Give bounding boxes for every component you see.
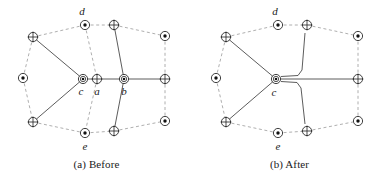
label-c: c <box>272 86 277 98</box>
label-a: a <box>94 85 100 97</box>
after-diagram: d c e <box>193 0 386 160</box>
figure-container: d c a b e (a) Before <box>0 0 387 187</box>
before-diagram: d c a b e <box>0 0 193 160</box>
node-e <box>80 128 89 137</box>
node-d <box>80 20 89 29</box>
dotted-circle-node <box>211 73 220 82</box>
label-c: c <box>79 85 84 97</box>
dotted-circle-node <box>160 31 169 40</box>
node-b <box>119 74 128 83</box>
label-e: e <box>83 140 88 152</box>
crossed-circle-node <box>28 32 39 43</box>
crossed-circle-node <box>160 74 171 85</box>
label-e: e <box>276 140 281 152</box>
panel-after: d c e (b) After <box>193 0 386 187</box>
node-e <box>273 128 282 137</box>
dotted-circle-node <box>160 116 169 125</box>
caption-after: (b) After <box>193 158 386 170</box>
node-a <box>92 74 103 85</box>
label-b: b <box>121 85 127 97</box>
label-d: d <box>79 5 85 17</box>
caption-before: (a) Before <box>0 158 193 170</box>
node-c <box>78 74 87 83</box>
crossed-circle-node <box>353 74 364 85</box>
node-c <box>271 74 280 83</box>
dotted-circle-node <box>353 116 362 125</box>
panel-before: d c a b e (a) Before <box>0 0 193 187</box>
after-solid-edges <box>226 33 358 124</box>
crossed-circle-node <box>302 20 313 31</box>
crossed-circle-node <box>302 126 313 137</box>
node-d <box>273 20 282 29</box>
crossed-circle-node <box>109 126 120 137</box>
crossed-circle-node <box>221 32 232 43</box>
crossed-circle-node <box>109 20 120 31</box>
dotted-circle-node <box>18 73 27 82</box>
label-d: d <box>272 5 278 17</box>
dotted-circle-node <box>353 31 362 40</box>
